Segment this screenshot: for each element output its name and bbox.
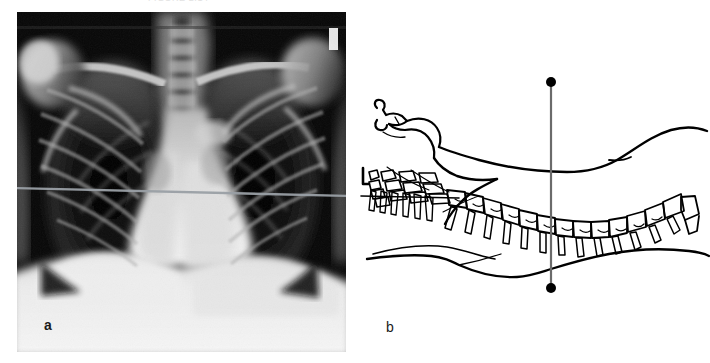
vertical-reference-line-group	[546, 77, 556, 293]
supine-patient-line-drawing	[355, 0, 710, 363]
cervical-spinous-processes	[369, 190, 433, 221]
figure-container: FIGURE 2.14	[0, 0, 710, 363]
panel-b-line-drawing	[355, 0, 710, 363]
panel-b-label: b	[386, 320, 394, 334]
torso-outline	[434, 127, 707, 224]
thoracolumbar-vertebrae	[447, 190, 684, 238]
cropped-header-text: FIGURE 2.14	[148, 0, 209, 3]
panel-a-label: a	[44, 318, 52, 332]
head-profile	[375, 100, 440, 158]
back-contour	[367, 246, 709, 277]
chest-radiograph-image	[17, 12, 346, 352]
panel-a-chest-radiograph	[17, 12, 346, 352]
reference-dot-bottom	[546, 283, 556, 293]
reference-dot-top	[546, 77, 556, 87]
terminal-vertebra	[681, 196, 699, 234]
cervical-vertebrae	[363, 168, 450, 207]
